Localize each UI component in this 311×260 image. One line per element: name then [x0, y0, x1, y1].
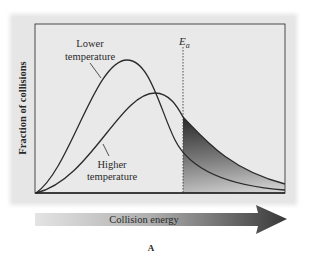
plot-area — [35, 24, 285, 193]
y-axis-label: Fraction of collisions — [17, 61, 28, 154]
lower-temperature-label-line2: temperature — [65, 51, 115, 62]
lower-temperature-label-line1: Lower — [76, 38, 104, 49]
panel-label: A — [148, 243, 155, 253]
x-axis-label: Collision energy — [109, 214, 179, 225]
collision-energy-diagram: Lower temperature Higher temperature Ea … — [0, 0, 311, 260]
higher-temperature-label-line1: Higher — [97, 159, 127, 170]
ea-subscript: a — [186, 41, 190, 50]
higher-temperature-label-line2: temperature — [87, 171, 137, 182]
